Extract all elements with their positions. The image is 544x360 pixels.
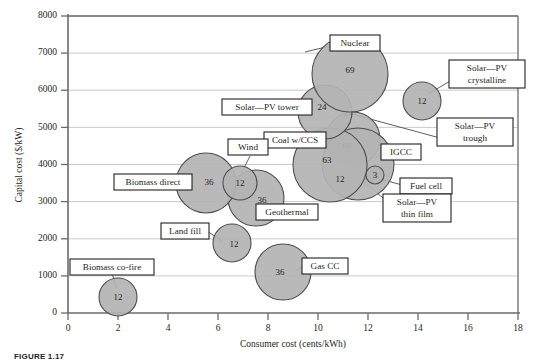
callout-wind[interactable]: Wind — [228, 139, 268, 155]
bubble-value-label: 36 — [276, 267, 286, 277]
bubble-solar-pv-thin-film[interactable]: 12 — [336, 174, 345, 184]
callout-coal-w-ccs[interactable]: Coal w/CCS — [264, 132, 326, 148]
callout-line-2: crystalline — [468, 75, 506, 85]
x-tick-label-6: 6 — [216, 323, 221, 333]
callout-line-1: Solar—PV tower — [235, 102, 298, 112]
callout-solar-pv-crystalline[interactable]: Solar—PV crystalline — [449, 60, 525, 88]
callout-line-1: Solar—PV — [397, 197, 438, 207]
callout-line-1: Nuclear — [340, 38, 369, 48]
callout-line-1: Coal w/CCS — [272, 135, 318, 145]
callout-land-fill[interactable]: Land fill — [161, 223, 209, 239]
callout-line-1: IGCC — [390, 147, 412, 157]
figure-container: 8000 7000 6000 5000 4000 3000 2000 1000 … — [0, 0, 544, 360]
bubble-value-label: 12 — [114, 292, 123, 302]
x-tick-label-0: 0 — [66, 323, 71, 333]
bubble-chart: 8000 7000 6000 5000 4000 3000 2000 1000 … — [0, 0, 544, 360]
bubble-fuel-cell[interactable]: 3 — [366, 166, 384, 184]
callout-line-1: Biomass direct — [126, 177, 181, 187]
y-tick-label-7000: 7000 — [38, 47, 57, 57]
callout-line-1: Gas CC — [311, 261, 340, 271]
callout-solar-pv-tower[interactable]: Solar—PV tower — [222, 99, 312, 115]
bubble-land-fill[interactable]: 12 — [213, 224, 251, 262]
callout-line-2: thin film — [401, 209, 433, 219]
bubble-value-label: 63 — [323, 155, 333, 165]
y-tick-label-1000: 1000 — [38, 270, 57, 280]
callout-line-1: Biomass co-fire — [83, 262, 141, 272]
x-tick-label-8: 8 — [266, 323, 271, 333]
x-tick-label-18: 18 — [513, 323, 523, 333]
callout-solar-pv-trough[interactable]: Solar—PV trough — [437, 118, 513, 146]
callout-geothermal[interactable]: Geothermal — [256, 204, 318, 220]
callout-solar-pv-thin-film[interactable]: Solar—PV thin film — [383, 194, 451, 222]
bubble-biomass-co-fire[interactable]: 12 — [99, 278, 137, 316]
figure-caption: FIGURE 1.17 — [14, 352, 64, 360]
x-tick-label-16: 16 — [463, 323, 473, 333]
y-axis: 8000 7000 6000 5000 4000 3000 2000 1000 … — [14, 10, 68, 317]
bubble-wind[interactable]: 12 — [223, 166, 257, 200]
callout-line-1: Fuel cell — [410, 181, 442, 191]
y-tick-label-3000: 3000 — [38, 196, 57, 206]
callout-line-1: Solar—PV — [467, 63, 508, 73]
bubble-value-label: 12 — [236, 178, 245, 188]
callout-line-2: trough — [463, 133, 487, 143]
callout-line-1: Land fill — [169, 226, 201, 236]
x-axis-title: Consumer cost (cents/kWh) — [240, 339, 346, 350]
x-tick-label-10: 10 — [313, 323, 323, 333]
callout-igcc[interactable]: IGCC — [381, 144, 421, 160]
y-tick-label-5000: 5000 — [38, 122, 57, 132]
y-tick-label-6000: 6000 — [38, 84, 57, 94]
y-tick-label-0: 0 — [52, 307, 57, 317]
bubble-value-label: 12 — [230, 239, 239, 249]
callout-line-1: Solar—PV — [455, 121, 496, 131]
y-tick-label-8000: 8000 — [38, 10, 57, 20]
callout-gas-cc[interactable]: Gas CC — [302, 258, 348, 274]
y-tick-label-2000: 2000 — [38, 233, 57, 243]
bubble-value-label: 69 — [346, 65, 356, 75]
x-tick-label-14: 14 — [413, 323, 423, 333]
x-axis: 0 2 4 6 8 10 12 14 16 18 Consumer cost (… — [66, 313, 523, 350]
callout-line-1: Geothermal — [265, 207, 309, 217]
callout-fuel-cell[interactable]: Fuel cell — [400, 178, 452, 194]
bubble-value-label: 3 — [373, 170, 378, 180]
callout-nuclear[interactable]: Nuclear — [330, 35, 380, 51]
callout-biomass-direct[interactable]: Biomass direct — [114, 174, 192, 190]
bubble-value-label: 12 — [336, 174, 345, 184]
bubble-solar-pv-crystalline[interactable]: 12 — [403, 82, 441, 120]
callout-line-1: Wind — [238, 142, 258, 152]
x-tick-label-2: 2 — [116, 323, 121, 333]
bubble-value-label: 36 — [205, 177, 215, 187]
bubble-value-label: 12 — [418, 96, 427, 106]
y-axis-title: Capital cost ($/kW) — [14, 128, 25, 203]
callout-biomass-co-fire[interactable]: Biomass co-fire — [70, 259, 154, 275]
y-tick-label-4000: 4000 — [38, 159, 57, 169]
x-tick-label-4: 4 — [166, 323, 171, 333]
x-tick-label-12: 12 — [363, 323, 373, 333]
